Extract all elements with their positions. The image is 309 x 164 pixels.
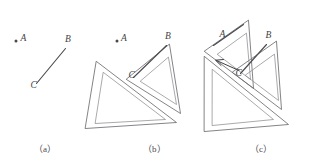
panel-b-label-c: C xyxy=(129,70,136,80)
panel-a: A B C xyxy=(15,33,72,91)
panel-b-segment-bc xyxy=(134,46,167,78)
panel-b-caption: （b） xyxy=(143,142,166,155)
panel-a-label-b: B xyxy=(65,34,71,44)
panel-b-set-square-large-window xyxy=(96,73,166,124)
panel-c-set-square-slid-window xyxy=(218,34,251,80)
panel-c-segment-parallel-through-a xyxy=(214,25,244,46)
panel-b-label-a: A xyxy=(120,33,127,43)
panel-c: A B C xyxy=(205,21,289,132)
panel-c-label-c: C xyxy=(236,68,243,78)
panel-c-set-square-large-window xyxy=(213,70,274,126)
figure-root: A B C A B C xyxy=(0,0,309,164)
panel-b-set-square-small-window xyxy=(141,58,177,105)
panel-a-segment-bc xyxy=(37,49,66,84)
panel-c-segment-bc xyxy=(241,45,267,74)
panel-b: A B C xyxy=(86,31,181,129)
panel-a-label-c: C xyxy=(31,80,38,90)
panel-a-label-a: A xyxy=(20,33,27,43)
point-a-dot xyxy=(15,40,18,43)
figure-svg: A B C A B C xyxy=(0,0,309,164)
panel-c-label-b: B xyxy=(266,30,272,40)
panel-b-point-a-dot xyxy=(116,40,119,43)
panel-a-caption: （a） xyxy=(34,142,56,155)
panel-c-set-square-slid-outline xyxy=(205,21,254,89)
panel-c-label-a: A xyxy=(219,29,226,39)
panel-c-caption: （c） xyxy=(250,142,272,155)
panel-b-label-b: B xyxy=(165,31,171,41)
